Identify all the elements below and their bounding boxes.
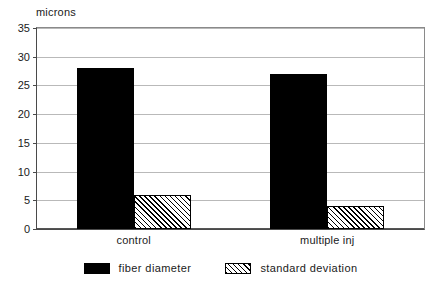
y-axis-tick-label-5: 5 xyxy=(24,194,30,206)
gridline-30 xyxy=(37,57,424,58)
legend-label-standard-deviation: standard deviation xyxy=(260,262,357,274)
y-axis-tick-mark-10 xyxy=(33,172,37,173)
bar-control-standard-deviation xyxy=(134,195,191,229)
y-axis-tick-label-0: 0 xyxy=(24,223,30,235)
chart-legend: fiber diameter standard deviation xyxy=(0,262,441,274)
y-axis-tick-label-30: 30 xyxy=(18,51,30,63)
y-axis-tick-label-35: 35 xyxy=(18,22,30,34)
y-axis-tick-mark-20 xyxy=(33,114,37,115)
legend-label-fiber-diameter: fiber diameter xyxy=(119,262,192,274)
y-axis-tick-label-20: 20 xyxy=(18,108,30,120)
gridline-35 xyxy=(37,28,424,29)
legend-item-standard-deviation: standard deviation xyxy=(225,262,357,274)
plot-inner: 35302520151050 xyxy=(37,28,424,229)
y-axis-tick-mark-35 xyxy=(33,28,37,29)
x-axis-category-label-multiple-inj: multiple inj xyxy=(300,234,354,246)
y-axis-tick-mark-25 xyxy=(33,85,37,86)
legend-swatch-hatched-icon xyxy=(225,263,251,274)
y-axis-tick-label-15: 15 xyxy=(18,137,30,149)
y-axis-unit-label: microns xyxy=(36,6,76,18)
legend-item-fiber-diameter: fiber diameter xyxy=(84,262,192,274)
plot-area: 35302520151050 xyxy=(36,27,425,230)
bar-control-fiber-diameter xyxy=(77,68,134,229)
y-axis-tick-mark-30 xyxy=(33,57,37,58)
y-axis-tick-label-10: 10 xyxy=(18,166,30,178)
y-axis-tick-mark-0 xyxy=(33,229,37,230)
bar-multiple-inj-standard-deviation xyxy=(327,206,384,229)
x-axis-category-label-control: control xyxy=(117,234,151,246)
bar-multiple-inj-fiber-diameter xyxy=(270,74,327,229)
y-axis-tick-mark-5 xyxy=(33,200,37,201)
y-axis-tick-mark-15 xyxy=(33,143,37,144)
bar-chart-figure: microns 35302520151050 control multiple … xyxy=(0,0,441,290)
legend-swatch-solid-icon xyxy=(84,263,110,274)
y-axis-tick-label-25: 25 xyxy=(18,79,30,91)
